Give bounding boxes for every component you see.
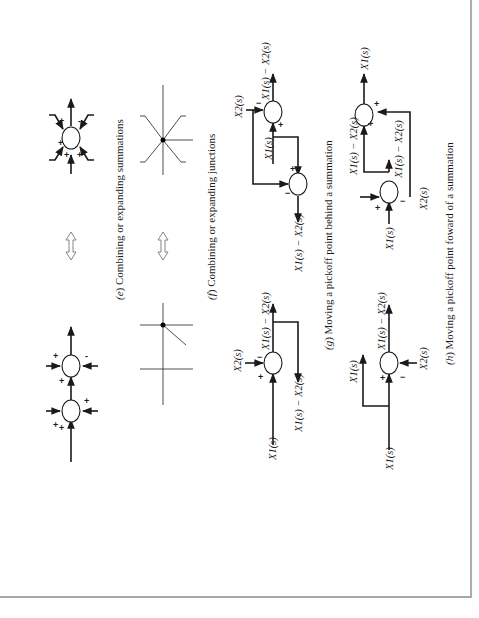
sign: − — [257, 352, 262, 362]
panel-h: + − + + X1(s) X2(s) X1(s) − X2(s) X1(s) … — [348, 47, 456, 471]
sign: + — [84, 396, 89, 406]
h-before-diagram: + − X1(s) X1(s) X2(s) X1(s) − X2(s) — [348, 292, 430, 471]
g-after-diagram: − + + − X2(s) X1(s) X1(s) − X2(s) X1(s) … — [233, 42, 307, 273]
junction-dot — [161, 138, 166, 143]
label-x2: X2(s) — [233, 95, 245, 119]
label-x1: X1(s) — [384, 227, 396, 251]
panel-f: (f) Combining or expanding junctions — [140, 85, 218, 405]
sign: + — [59, 376, 64, 386]
sign: − — [400, 196, 405, 206]
label-mid: X1(s) − X2(s) — [348, 117, 360, 176]
combined-junction — [140, 85, 193, 175]
sign: + — [278, 120, 283, 130]
cascaded-summations: + + + + + - — [46, 327, 98, 462]
label-x1: X1(s) — [263, 137, 275, 161]
sign: − — [400, 372, 405, 382]
sign: + — [258, 372, 263, 382]
summing-junction-upper — [62, 355, 80, 377]
sign: + — [374, 99, 379, 109]
h-after-diagram: + − + + X1(s) X2(s) X1(s) − X2(s) X1(s) … — [348, 47, 430, 251]
label-pickoff: X1(s) − X2(s) — [293, 374, 305, 433]
expanded-junctions — [140, 303, 193, 405]
label-x1: X1(s) — [267, 437, 279, 461]
sign: + — [53, 420, 58, 430]
sign: + — [64, 150, 69, 160]
label-output: X1(s) − X2(s) — [260, 292, 272, 351]
sign: + — [375, 203, 380, 213]
panel-e: + + + + - + + + + + - — [46, 99, 126, 462]
junction-dot — [161, 323, 166, 328]
label-x2: X2(s) — [232, 349, 244, 373]
label-branch: X1(s) − X2(s) — [393, 120, 405, 179]
sign: + — [53, 351, 58, 361]
g-before-diagram: − + X2(s) X1(s) X1(s) − X2(s) X1(s) − X2… — [232, 292, 305, 461]
sign: - — [78, 116, 81, 126]
equivalence-arrow-icon — [158, 232, 168, 260]
sign: + — [368, 119, 373, 129]
summing-junction — [62, 127, 80, 149]
label-output: X1(s) — [359, 47, 371, 71]
sign: + — [58, 138, 63, 148]
sign: + — [380, 373, 385, 383]
label-x2: X2(s) — [418, 187, 430, 211]
summing-junction-lower — [62, 400, 80, 422]
sign: + — [290, 164, 295, 174]
figure-page: + + + + - + + + + + - — [0, 0, 479, 618]
panel-g: − + + − X2(s) X1(s) X1(s) − X2(s) X1(s) … — [232, 42, 335, 461]
caption-h: (h) Moving a pickoff point foward of a s… — [443, 142, 456, 365]
label-pickoff: X1(s) — [348, 360, 360, 384]
sign: - — [85, 351, 88, 361]
sign: + — [59, 116, 64, 126]
label-x2: X2(s) — [418, 347, 430, 371]
sign: + — [59, 423, 64, 433]
label-output: X1(s) − X2(s) — [376, 292, 388, 351]
equivalence-arrow-icon — [66, 232, 76, 260]
sign: − — [285, 188, 290, 198]
label-pickoff: X1(s) − X2(s) — [293, 214, 305, 273]
caption-f: (f) Combining or expanding junctions — [205, 134, 218, 300]
label-x1: X1(s) — [384, 447, 396, 471]
sign: + — [77, 150, 82, 160]
label-output: X1(s) − X2(s) — [260, 42, 272, 101]
caption-g: (g) Moving a pickoff point behind a summ… — [322, 140, 335, 350]
caption-e: (e) Combining or expanding summations — [113, 119, 126, 300]
page-border — [0, 0, 471, 597]
combined-summation: + + + + - — [49, 99, 94, 174]
block-diagram-figure: + + + + - + + + + + - — [0, 0, 479, 618]
